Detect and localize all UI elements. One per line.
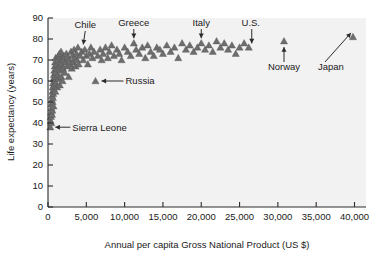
annotation-label-sierra-leone: Sierra Leone [72,122,126,133]
annotation-label-russia: Russia [126,75,156,86]
y-tick-label: 70 [32,54,43,65]
annotation-label-japan: Japan [318,61,344,72]
x-tick-label: 0 [45,211,50,222]
y-tick-label: 60 [32,75,43,86]
y-tick-label: 10 [32,180,43,191]
y-tick-label: 50 [32,96,43,107]
y-tick-label: 40 [32,117,43,128]
x-tick-label: 15,000 [148,211,177,222]
chart-svg: 0102030405060708090 05,00010,00015,00020… [0,0,373,260]
annotation-label-greece: Greece [118,17,149,28]
x-tick-label: 20,000 [187,211,216,222]
y-axis-title: Life expectancy (years) [5,63,16,161]
x-tick-label: 25,000 [225,211,254,222]
y-tick-label: 30 [32,138,43,149]
annotation-label-norway: Norway [268,61,300,72]
annotation-label-chile: Chile [74,19,96,30]
x-tick-label: 30,000 [263,211,292,222]
annotation-label-italy: Italy [193,17,211,28]
y-tick-label: 0 [38,201,43,212]
x-tick-label: 35,000 [302,211,331,222]
x-axis-title: Annual per capita Gross National Product… [105,239,310,250]
y-tick-label: 90 [32,12,43,23]
scatter-chart-figure: 0102030405060708090 05,00010,00015,00020… [0,0,373,260]
y-tick-label: 20 [32,159,43,170]
x-tick-label: 40,000 [340,211,369,222]
annotation-label-us: U.S. [242,17,260,28]
x-tick-label: 5,000 [74,211,98,222]
x-tick-label: 10,000 [110,211,139,222]
y-tick-label: 80 [32,33,43,44]
